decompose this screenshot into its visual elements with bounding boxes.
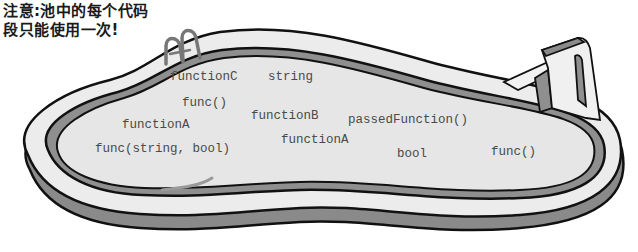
- pool-snippet[interactable]: bool: [397, 147, 427, 161]
- pool-snippet[interactable]: func(string, bool): [95, 142, 230, 156]
- pool-snippet[interactable]: functionB: [251, 109, 319, 123]
- pool-snippet[interactable]: string: [268, 70, 313, 84]
- pool-snippet[interactable]: func(): [182, 96, 227, 110]
- pool-snippet[interactable]: passedFunction(): [348, 113, 468, 127]
- pool-snippet[interactable]: functionA: [281, 133, 349, 147]
- pool-illustration: [0, 0, 638, 252]
- pool-snippet[interactable]: functionA: [122, 118, 190, 132]
- pool-snippet[interactable]: func(): [491, 145, 536, 159]
- pool-snippet[interactable]: functionC: [170, 70, 238, 84]
